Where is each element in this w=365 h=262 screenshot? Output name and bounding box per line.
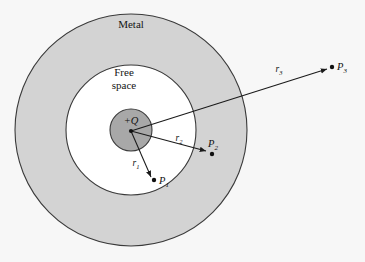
vector-label-r3-subscript: 3 <box>278 69 283 76</box>
point-label-p3: P3 <box>336 61 347 75</box>
point-label-p3-subscript: 3 <box>342 67 347 75</box>
point-dot-p1 <box>152 178 156 182</box>
free-space-region-label: Free <box>114 66 134 78</box>
charge-center-dot <box>129 129 133 133</box>
physics-diagram-charged-sphere-in-metal-shell: Metal Free space +Q r1 r2 r3 P1 P2 P3 <box>0 0 365 262</box>
vector-label-r1-subscript: 1 <box>136 163 139 170</box>
free-space-region-label-line2: space <box>112 79 137 91</box>
charge-label: +Q <box>124 115 139 126</box>
point-label-p1-subscript: 1 <box>165 181 169 189</box>
vector-label-r3: r3 <box>276 64 284 76</box>
point-dot-p2 <box>210 152 214 156</box>
point-label-p2-subscript: 2 <box>214 144 218 152</box>
metal-region-label: Metal <box>118 18 144 30</box>
point-dot-p3 <box>330 65 334 69</box>
